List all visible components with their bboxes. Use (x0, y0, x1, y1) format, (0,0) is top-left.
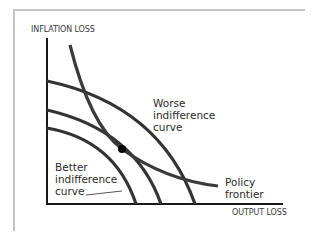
worse-label-line1: Worse (153, 97, 215, 109)
worse-label-line3: curve (153, 121, 215, 133)
worse-indifference-label: Worse indifference curve (153, 97, 215, 133)
better-label-line2: indifference (55, 173, 117, 185)
better-label-line3: curve (55, 185, 117, 197)
x-axis-label: OUTPUT LOSS (232, 208, 287, 217)
policy-label-line1: Policy (225, 176, 264, 188)
optimal-point (118, 145, 126, 153)
y-axis-label: INFLATION LOSS (31, 25, 95, 34)
policy-label-line2: frontier (225, 188, 264, 200)
better-label-line1: Better (55, 161, 117, 173)
better-indifference-label: Better indifference curve (55, 161, 117, 197)
worse-label-line2: indifference (153, 109, 215, 121)
policy-frontier-label: Policy frontier (225, 176, 264, 200)
